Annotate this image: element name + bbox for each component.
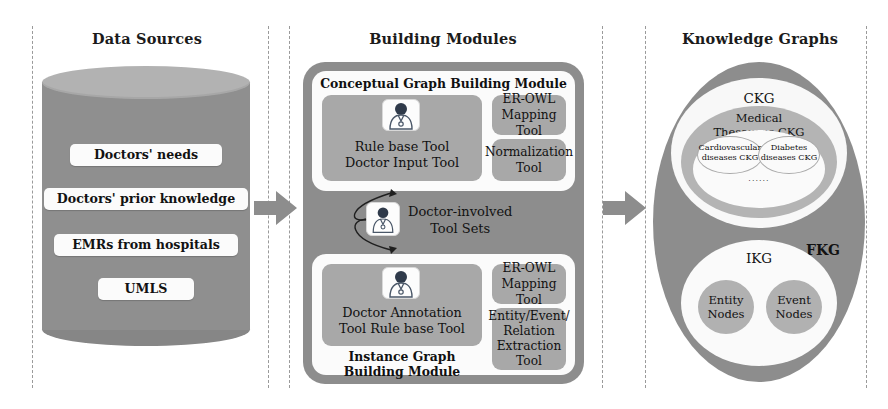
knowledge-graphs-container: FKG CKG Medical Thesaurus CKG Cardiovasc… xyxy=(653,62,865,382)
extraction-line4: Tool xyxy=(516,354,542,369)
event-line2: Nodes xyxy=(775,307,812,321)
knowledge-graphs-title: Knowledge Graphs xyxy=(665,30,855,47)
doctor-icon xyxy=(382,99,420,131)
building-modules-container: Conceptual Graph Building Module Rule ba… xyxy=(303,62,584,384)
building-modules-title: Building Modules xyxy=(348,30,538,47)
leaf-left-line1: Cardiovascular xyxy=(699,142,762,152)
event-line1: Event xyxy=(777,293,811,307)
instance-er-owl-line1: ER-OWL xyxy=(503,260,556,276)
instance-er-owl-line2: Mapping Tool xyxy=(492,276,566,308)
conceptual-main-tool-box[interactable]: Rule base Tool Doctor Input Tool xyxy=(322,95,482,181)
doctor-icon-instance xyxy=(382,267,420,299)
ckg-label: CKG xyxy=(729,90,789,106)
data-source-item-prior-knowledge[interactable]: Doctors' prior knowledge xyxy=(44,188,248,210)
entity-nodes-label: Entity Nodes xyxy=(698,293,754,321)
divider-1 xyxy=(32,26,33,388)
extraction-line2: Relation xyxy=(503,324,555,339)
right-arrow-icon-2 xyxy=(603,190,647,226)
diagram-canvas: Data Sources Building Modules Knowledge … xyxy=(0,0,888,409)
instance-title-line1: Instance Graph xyxy=(348,349,455,364)
divider-6 xyxy=(866,26,867,388)
mid-label-line1: Doctor-involved xyxy=(408,204,512,219)
er-owl-line1: ER-OWL xyxy=(503,91,556,107)
doctor-icon-middle xyxy=(366,202,400,236)
event-nodes-label: Event Nodes xyxy=(766,293,822,321)
instance-er-owl-tool[interactable]: ER-OWL Mapping Tool xyxy=(492,264,566,304)
data-source-item-doctors-needs[interactable]: Doctors' needs xyxy=(70,144,222,166)
ckg-ellipsis: ...... xyxy=(729,174,789,183)
conceptual-er-owl-tool[interactable]: ER-OWL Mapping Tool xyxy=(492,95,566,135)
leaf-left-line2: diseases CKG xyxy=(702,152,759,162)
normalization-tool[interactable]: Normalization Tool xyxy=(492,139,566,181)
data-sources-title: Data Sources xyxy=(62,30,232,47)
conceptual-graph-module: Conceptual Graph Building Module Rule ba… xyxy=(312,71,575,191)
instance-tool-line1: Doctor Annotation xyxy=(342,305,462,320)
data-sources-cylinder: Doctors' needs Doctors' prior knowledge … xyxy=(42,66,250,344)
instance-tool-line2: Tool Rule base Tool xyxy=(339,321,465,336)
conceptual-tool-line1: Rule base Tool xyxy=(355,139,450,154)
extraction-tool[interactable]: Entity/Event/ Relation Extraction Tool xyxy=(492,308,566,370)
instance-module-title: Instance Graph Building Module xyxy=(312,349,492,379)
right-arrow-icon-1 xyxy=(254,190,298,226)
cardiovascular-ckg-label: Cardiovascular diseases CKG xyxy=(697,142,763,162)
ikg-label: IKG xyxy=(729,250,789,266)
leaf-right-line1: Diabetes xyxy=(771,142,808,152)
instance-graph-module: Doctor Annotation Tool Rule base Tool In… xyxy=(312,254,575,375)
extraction-line1: Entity/Event/ xyxy=(488,309,569,324)
data-source-item-umls[interactable]: UMLS xyxy=(98,278,194,300)
conceptual-module-title: Conceptual Graph Building Module xyxy=(312,76,575,91)
extraction-line3: Extraction xyxy=(497,339,562,354)
diabetes-ckg-label: Diabetes diseases CKG xyxy=(758,142,820,162)
entity-line2: Nodes xyxy=(707,307,744,321)
instance-title-line2: Building Module xyxy=(344,364,461,379)
cylinder-top xyxy=(42,66,250,99)
data-source-item-emrs[interactable]: EMRs from hospitals xyxy=(54,234,238,256)
er-owl-line2: Mapping Tool xyxy=(492,107,566,139)
normalization-line1: Normalization xyxy=(485,144,573,160)
entity-line1: Entity xyxy=(708,293,743,307)
mid-label-line2: Tool Sets xyxy=(408,220,512,237)
conceptual-tool-line2: Doctor Input Tool xyxy=(345,155,459,170)
thesaurus-line1: Medical xyxy=(736,111,783,125)
leaf-right-line2: diseases CKG xyxy=(761,152,818,162)
doctor-involved-tool-sets-label: Doctor-involved Tool Sets xyxy=(408,203,512,237)
instance-main-tool-box[interactable]: Doctor Annotation Tool Rule base Tool xyxy=(322,264,482,346)
normalization-line2: Tool xyxy=(516,160,542,176)
